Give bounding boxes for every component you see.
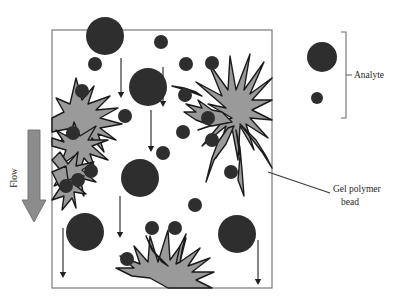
analyte-particle-small xyxy=(205,133,219,147)
analyte-particle-small xyxy=(120,252,134,266)
analyte-particle-small xyxy=(179,57,193,71)
analyte-particle-small xyxy=(156,146,170,160)
analyte-particle-small xyxy=(201,111,215,125)
analyte-particle-small xyxy=(176,125,190,139)
analyte-particle-small xyxy=(84,164,98,178)
schematic-diagram: Flow Analyte Gel polymer bead xyxy=(0,0,410,305)
analyte-particle-small xyxy=(88,57,102,71)
flow-label: Flow xyxy=(9,168,19,188)
analyte-particle-large xyxy=(121,159,159,197)
figure-canvas: Flow Analyte Gel polymer bead xyxy=(0,0,410,305)
analyte-particle-small xyxy=(71,173,85,187)
legend-analyte-large-circle xyxy=(307,42,337,72)
gel-polymer-bead-label-line1: Gel polymer xyxy=(333,184,382,194)
analyte-particle-large xyxy=(218,215,256,253)
analyte-particle-small xyxy=(168,221,182,235)
analyte-particle-small xyxy=(154,35,168,49)
analyte-particle-small xyxy=(188,198,202,212)
analyte-label: Analyte xyxy=(354,70,384,80)
analyte-particle-small xyxy=(59,179,73,193)
legend-analyte-small-circle xyxy=(311,92,323,104)
analyte-particle-small xyxy=(75,84,89,98)
analyte-particle-large xyxy=(86,17,124,55)
analyte-particle-large xyxy=(66,213,104,251)
analyte-particle-small xyxy=(66,126,80,140)
analyte-particle-small xyxy=(178,88,192,102)
analyte-particle-small xyxy=(224,165,238,179)
analyte-particle-large xyxy=(129,68,167,106)
gel-polymer-bead-label-line2: bead xyxy=(341,197,359,207)
analyte-particle-small xyxy=(118,109,132,123)
analyte-particle-small xyxy=(205,56,219,70)
analyte-particle-small xyxy=(145,221,159,235)
